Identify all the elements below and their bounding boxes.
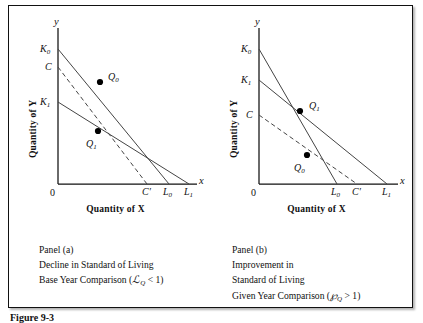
panel-b-label-c-prime: C′ bbox=[352, 187, 361, 197]
panel-a-label-q1: Q1 bbox=[86, 139, 97, 149]
panel-b-point-q0 bbox=[304, 152, 310, 158]
panel-a-caption-line-1: Panel (a) bbox=[39, 242, 214, 257]
panel-a-y-axis-title: Quantity of Y bbox=[28, 100, 38, 158]
panel-b-label-q1: Q1 bbox=[309, 101, 320, 111]
panel-a-point-q1 bbox=[95, 128, 101, 134]
panel-b-label-k0: K0 bbox=[241, 44, 251, 54]
panel-b-line-cc bbox=[259, 115, 357, 184]
panel-a-label-l1: L1 bbox=[184, 187, 193, 197]
panel-b-line-k1l1 bbox=[259, 80, 387, 184]
panel-b-caption-line-3: Standard of Living bbox=[232, 272, 407, 287]
panel-a-label-k1: K1 bbox=[40, 97, 50, 107]
panel-b-svg bbox=[210, 6, 411, 231]
panel-b-caption-line-4: Given Year Comparison (℘Q > 1) bbox=[232, 288, 407, 305]
figure-number: Figure 9-3 bbox=[10, 312, 54, 323]
panel-b-y-axis-title: Quantity of Y bbox=[229, 100, 239, 158]
figure-frame: y x 0 K0 C K1 C′ L0 L1 Q0 Q1 Quantity of… bbox=[8, 5, 413, 308]
panel-a-label-c: C bbox=[45, 62, 52, 72]
panel-b-label-q0: Q0 bbox=[294, 163, 305, 173]
panel-b-caption: Panel (b) Improvement in Standard of Liv… bbox=[232, 242, 407, 305]
panel-a-origin-label: 0 bbox=[50, 187, 55, 198]
panel-a-caption-line-2: Decline in Standard of Living bbox=[39, 257, 214, 272]
panel-a: y x 0 K0 C K1 C′ L0 L1 Q0 Q1 Quantity of… bbox=[9, 6, 210, 309]
panel-a-plot: y x 0 K0 C K1 C′ L0 L1 Q0 Q1 bbox=[9, 6, 210, 231]
panel-a-label-q0: Q0 bbox=[108, 72, 119, 82]
panel-a-caption-line-3: Base Year Comparison (ℒQ < 1) bbox=[39, 272, 214, 289]
panel-a-label-l0: L0 bbox=[163, 187, 172, 197]
panel-a-label-c-prime: C′ bbox=[142, 187, 151, 197]
panel-b-caption-line-2: Improvement in bbox=[232, 257, 407, 272]
panel-a-y-axis-name: y bbox=[54, 16, 59, 27]
panel-b: y x 0 K0 K1 C L0 C′ L1 Q1 Q0 Quantity of… bbox=[210, 6, 411, 309]
panel-b-plot: y x 0 K0 K1 C L0 C′ L1 Q1 Q0 bbox=[210, 6, 411, 231]
panel-a-index-subscript: Q bbox=[140, 279, 145, 287]
panel-a-x-axis-title: Quantity of X bbox=[15, 204, 216, 214]
panel-b-caption-line-1: Panel (b) bbox=[232, 242, 407, 257]
panel-b-origin-label: 0 bbox=[251, 187, 256, 198]
panel-a-line-k1l1 bbox=[58, 102, 189, 184]
panel-b-label-k1: K1 bbox=[241, 75, 251, 85]
panel-a-svg bbox=[9, 6, 210, 231]
panel-b-label-c: C bbox=[246, 110, 253, 120]
panel-b-index-subscript: Q bbox=[337, 295, 342, 303]
panel-b-label-l0: L0 bbox=[331, 187, 340, 197]
panel-b-x-axis-title: Quantity of X bbox=[216, 204, 417, 214]
panel-a-line-k0l0 bbox=[58, 49, 169, 184]
panel-b-label-l1: L1 bbox=[382, 187, 391, 197]
panel-a-line-cc bbox=[58, 67, 147, 184]
panel-a-label-k0: K0 bbox=[40, 44, 50, 54]
panel-b-index-symbol: ℘ bbox=[330, 289, 337, 301]
panel-a-x-axis-name: x bbox=[199, 175, 204, 186]
panel-b-y-axis-name: y bbox=[255, 16, 260, 27]
panel-a-point-q0 bbox=[97, 79, 103, 85]
panel-a-index-relation: < 1 bbox=[148, 274, 161, 285]
panel-a-caption: Panel (a) Decline in Standard of Living … bbox=[39, 242, 214, 290]
panel-b-x-axis-name: x bbox=[400, 175, 405, 186]
panel-b-index-relation: > 1 bbox=[345, 290, 358, 301]
panel-b-point-q1 bbox=[297, 108, 303, 114]
